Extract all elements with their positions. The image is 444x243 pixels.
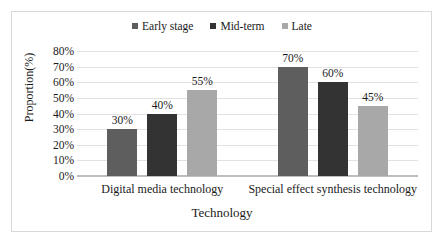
legend-item-early-stage[interactable]: Early stage <box>132 20 193 32</box>
y-axis-tick-label: 20% <box>30 139 74 151</box>
gridline <box>77 176 418 177</box>
y-axis-tick-label: 70% <box>30 61 74 73</box>
chart-legend: Early stage Mid-term Late <box>0 18 444 34</box>
y-axis-tick-label: 10% <box>30 154 74 166</box>
bar[interactable] <box>147 114 177 177</box>
y-axis-tick-label: 50% <box>30 92 74 104</box>
x-axis-category-label: Special effect synthesis technology <box>248 181 419 197</box>
bar-slot: 40% <box>147 51 177 176</box>
legend-swatch-icon-mid-term <box>210 23 216 29</box>
bar-value-label: 45% <box>362 91 383 103</box>
x-axis-title: Technology <box>0 205 444 221</box>
bar-slot: 55% <box>187 51 217 176</box>
y-axis-tick-label: 30% <box>30 123 74 135</box>
bar-value-label: 30% <box>112 114 133 126</box>
y-axis-tick-label: 60% <box>30 76 74 88</box>
bar[interactable] <box>107 129 137 176</box>
legend-swatch-icon-early-stage <box>132 23 138 29</box>
bar[interactable] <box>318 82 348 176</box>
y-axis-tick-label: 0% <box>30 170 74 182</box>
legend-label-late: Late <box>292 20 312 32</box>
bars-layer: 30%40%55%70%60%45% <box>77 51 418 176</box>
bar-value-label: 40% <box>152 99 173 111</box>
y-axis-tick-label: 80% <box>30 45 74 57</box>
bar[interactable] <box>187 90 217 176</box>
y-axis-tick-label: 40% <box>30 108 74 120</box>
bar-value-label: 55% <box>192 75 213 87</box>
bar[interactable] <box>358 106 388 176</box>
bar[interactable] <box>278 67 308 176</box>
legend-label-mid-term: Mid-term <box>220 20 264 32</box>
bar-value-label: 70% <box>282 52 303 64</box>
legend-label-early-stage: Early stage <box>142 20 193 32</box>
legend-item-late[interactable]: Late <box>282 20 312 32</box>
x-axis-category-label: Digital media technology <box>77 181 248 197</box>
bar-slot: 45% <box>358 51 388 176</box>
bar-slot: 70% <box>278 51 308 176</box>
bar-chart-figure: Early stage Mid-term Late Proportion(%) … <box>0 0 444 243</box>
legend-item-mid-term[interactable]: Mid-term <box>210 20 264 32</box>
y-axis-tick-labels: 0%10%20%30%40%50%60%70%80% <box>30 44 74 183</box>
legend-swatch-icon-late <box>282 23 288 29</box>
bar-group: 30%40%55% <box>77 51 248 176</box>
bar-group: 70%60%45% <box>248 51 419 176</box>
x-axis-category-labels: Digital media technologySpecial effect s… <box>77 181 418 199</box>
bar-slot: 60% <box>318 51 348 176</box>
bar-slot: 30% <box>107 51 137 176</box>
bar-value-label: 60% <box>322 67 343 79</box>
